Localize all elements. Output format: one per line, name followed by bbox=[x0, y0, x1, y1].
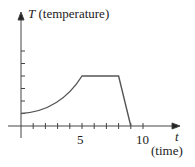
y-axis-label: T (temperature) bbox=[28, 6, 109, 22]
chart-canvas bbox=[0, 0, 195, 167]
x-tick-label-10: 10 bbox=[136, 132, 149, 148]
y-name: (temperature) bbox=[38, 6, 109, 21]
x-tick-label-5: 5 bbox=[77, 132, 84, 148]
axes bbox=[8, 12, 180, 138]
y-variable: T bbox=[28, 6, 35, 21]
x-axis-label: (time) bbox=[151, 143, 183, 159]
temperature-curve bbox=[21, 76, 131, 126]
